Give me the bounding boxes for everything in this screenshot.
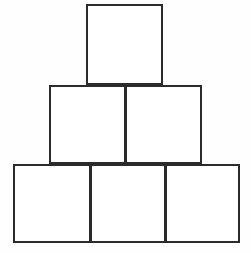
- block-bottom-right: [165, 164, 240, 243]
- block-bottom-left: [13, 164, 91, 243]
- block-bottom-center: [90, 164, 166, 243]
- block-middle-right: [125, 85, 202, 164]
- block-pyramid-figure: [0, 0, 251, 253]
- block-top: [86, 4, 163, 85]
- block-middle-left: [49, 85, 126, 164]
